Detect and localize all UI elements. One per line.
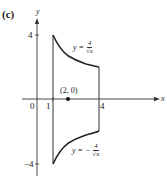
lower-curve-equation: y = − 4 √x: [72, 143, 99, 158]
upper-eq-fraction: 4 √x: [86, 40, 93, 55]
lower-eq-denominator: √x: [92, 151, 99, 158]
y-axis-arrow-icon: [35, 18, 39, 24]
x-axis-arrow-icon: [154, 97, 160, 101]
tick-label-yneg4: −4: [24, 160, 34, 169]
upper-eq-lhs: y =: [73, 43, 84, 52]
tick-label-origin: 0: [30, 102, 35, 111]
tick-label-y4: 4: [28, 31, 33, 40]
tick-label-x1: 1: [46, 102, 51, 111]
x-axis-label: x: [161, 95, 165, 103]
tick-label-x4: 4: [100, 102, 105, 111]
centroid-point: [66, 97, 70, 101]
upper-curve-equation: y = 4 √x: [73, 40, 93, 55]
y-axis-label: y: [36, 8, 40, 16]
upper-eq-denominator: √x: [86, 48, 93, 55]
lower-eq-fraction: 4 √x: [92, 143, 99, 158]
lower-eq-lhs: y = −: [72, 146, 90, 155]
panel-label: (c): [2, 9, 14, 20]
point-label: (2, 0): [60, 87, 77, 95]
